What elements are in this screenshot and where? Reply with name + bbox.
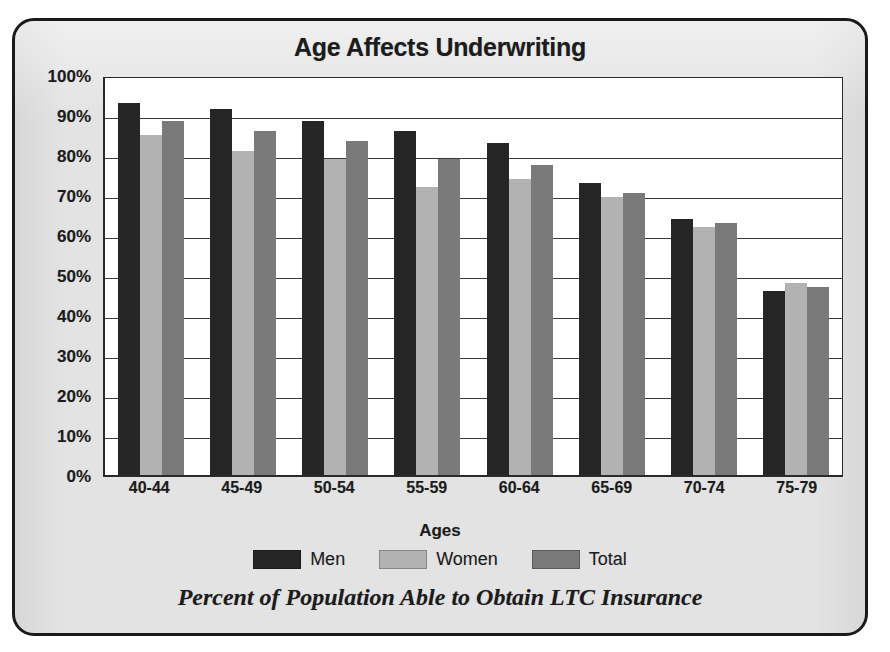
x-axis-title: Ages [15, 521, 865, 541]
bar-men [118, 103, 140, 475]
bar-total [254, 131, 276, 475]
chart-caption: Percent of Population Able to Obtain LTC… [15, 584, 865, 611]
x-axis-tick-label: 40-44 [129, 479, 170, 497]
x-axis-tick-labels: 40-4445-4950-5455-5960-6465-6970-7475-79 [103, 479, 843, 497]
bar-women [785, 283, 807, 475]
y-axis-tick-label: 20% [57, 387, 91, 407]
x-axis-tick-label: 70-74 [684, 479, 725, 497]
bar-group [487, 78, 553, 475]
y-axis-tick-label: 100% [48, 67, 91, 87]
legend-swatch-total [532, 550, 580, 569]
bar-women [324, 159, 346, 475]
bar-men [579, 183, 601, 475]
bar-total [531, 165, 553, 475]
bar-women [693, 227, 715, 475]
bar-men [671, 219, 693, 475]
x-axis-tick-label: 60-64 [499, 479, 540, 497]
plot-area [103, 77, 843, 477]
legend-swatch-men [253, 550, 301, 569]
x-axis-tick-label: 50-54 [314, 479, 355, 497]
bar-group [210, 78, 276, 475]
bar-men [210, 109, 232, 475]
bar-women [140, 135, 162, 475]
bar-total [623, 193, 645, 475]
chart-frame: Age Affects Underwriting 100%90%80%70%60… [12, 18, 868, 636]
y-axis-tick-label: 60% [57, 227, 91, 247]
bar-group [118, 78, 184, 475]
bar-total [346, 141, 368, 475]
x-axis-tick-label: 65-69 [591, 479, 632, 497]
bar-men [763, 291, 785, 475]
y-axis-tick-label: 70% [57, 187, 91, 207]
bar-total [807, 287, 829, 475]
bar-group [763, 78, 829, 475]
bar-total [438, 159, 460, 475]
plot-wrapper: 100%90%80%70%60%50%40%30%20%10%0% 40-444… [35, 77, 851, 491]
bar-women [601, 197, 623, 475]
legend-item-total: Total [532, 549, 627, 570]
legend-label: Men [310, 549, 345, 570]
chart-page: Age Affects Underwriting 100%90%80%70%60… [0, 0, 890, 652]
x-axis-tick-label: 45-49 [221, 479, 262, 497]
bar-men [302, 121, 324, 475]
bar-women [509, 179, 531, 475]
bar-women [416, 187, 438, 475]
bar-total [162, 121, 184, 475]
x-axis-tick-label: 55-59 [406, 479, 447, 497]
y-axis-tick-label: 10% [57, 427, 91, 447]
bar-group [302, 78, 368, 475]
y-axis-tick-label: 80% [57, 147, 91, 167]
bar-group [579, 78, 645, 475]
y-axis: 100%90%80%70%60%50%40%30%20%10%0% [35, 77, 97, 477]
legend-label: Women [436, 549, 498, 570]
y-axis-tick-label: 40% [57, 307, 91, 327]
legend-item-women: Women [379, 549, 498, 570]
bar-men [487, 143, 509, 475]
bar-group [671, 78, 737, 475]
bars-layer [105, 78, 842, 475]
bar-women [232, 151, 254, 475]
bar-total [715, 223, 737, 475]
bar-men [394, 131, 416, 475]
x-axis-tick-label: 75-79 [776, 479, 817, 497]
y-axis-tick-label: 50% [57, 267, 91, 287]
legend-item-men: Men [253, 549, 345, 570]
y-axis-tick-label: 30% [57, 347, 91, 367]
y-axis-tick-label: 0% [66, 467, 91, 487]
chart-title: Age Affects Underwriting [15, 33, 865, 62]
legend-swatch-women [379, 550, 427, 569]
chart-legend: MenWomenTotal [15, 549, 865, 570]
bar-group [394, 78, 460, 475]
y-axis-tick-label: 90% [57, 107, 91, 127]
legend-label: Total [589, 549, 627, 570]
